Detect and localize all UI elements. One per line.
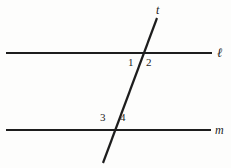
- line-label-l: ℓ: [217, 46, 222, 59]
- angle-label-2: 2: [146, 57, 152, 68]
- transversal-t-stroke: [103, 18, 157, 163]
- geometry-figure: ℓ m t 1 2 3 4: [0, 0, 231, 168]
- angle-label-3: 3: [100, 112, 106, 123]
- geometry-canvas: [0, 0, 231, 168]
- angle-label-1: 1: [128, 57, 134, 68]
- line-label-m: m: [215, 124, 224, 136]
- angle-label-4: 4: [120, 112, 126, 123]
- line-label-t: t: [156, 4, 159, 16]
